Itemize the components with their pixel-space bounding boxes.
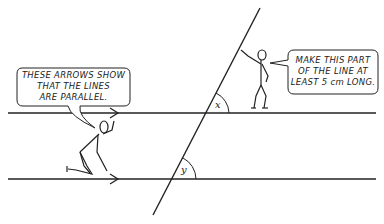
left-bubble-text: THESE ARROWS SHOW THAT THE LINES ARE PAR… — [17, 70, 130, 103]
left-bubble-line-3: ARE PARALLEL. — [17, 92, 130, 103]
kneeling-stick-figure — [67, 121, 114, 174]
standing-stick-figure — [241, 50, 268, 108]
right-bubble-line-2: OF THE LINE AT — [288, 66, 378, 77]
left-bubble-line-2: THAT THE LINES — [17, 81, 130, 92]
right-bubble-line-3: LEAST 5 cm LONG. — [288, 77, 378, 88]
transversal-line — [153, 8, 260, 215]
angle-y-label: y — [181, 164, 187, 175]
angle-x-label: x — [215, 99, 221, 110]
right-bubble-line-1: MAKE THIS PART — [288, 55, 378, 66]
left-bubble-line-1: THESE ARROWS SHOW — [17, 70, 130, 81]
diagram-canvas — [0, 0, 384, 224]
right-bubble-text: MAKE THIS PART OF THE LINE AT LEAST 5 cm… — [288, 55, 378, 88]
